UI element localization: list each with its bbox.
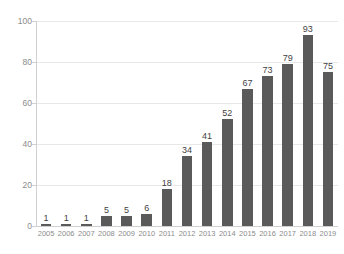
bar-rect (262, 76, 272, 226)
bar: 93 (303, 21, 313, 226)
y-axis-tick-label: 80 (6, 58, 32, 67)
bar: 18 (162, 21, 172, 226)
bar-rect (121, 216, 131, 226)
bar-chart: 020406080100 111556183441526773799375 20… (0, 0, 344, 254)
bar: 1 (61, 21, 71, 226)
bar-rect (202, 142, 212, 226)
bar-rect (141, 214, 151, 226)
x-axis-tick-label: 2005 (36, 229, 56, 238)
bar-rect (222, 119, 232, 226)
bar-rect (101, 216, 111, 226)
bar-value-label: 79 (274, 53, 300, 63)
y-axis-tick-label: 100 (6, 17, 32, 26)
bar-rect (303, 35, 313, 226)
bar: 1 (81, 21, 91, 226)
x-axis-tick-label: 2019 (318, 229, 338, 238)
x-axis-tick-label: 2012 (177, 229, 197, 238)
bar-value-label: 34 (174, 145, 200, 155)
y-axis-tick-label: 60 (6, 99, 32, 108)
bar: 67 (242, 21, 252, 226)
bar: 79 (282, 21, 292, 226)
y-axis-tick-label: 0 (6, 222, 32, 231)
bar-value-label: 67 (234, 78, 260, 88)
bar-rect (323, 72, 333, 226)
bar: 52 (222, 21, 232, 226)
bar-value-label: 6 (133, 203, 159, 213)
x-axis-line (36, 226, 338, 227)
bar-rect (162, 189, 172, 226)
x-axis-tick-label: 2016 (257, 229, 277, 238)
y-axis-tick-label: 40 (6, 140, 32, 149)
x-axis-tick-label: 2018 (298, 229, 318, 238)
plot-area: 111556183441526773799375 (36, 21, 338, 226)
x-axis-tick-label: 2017 (278, 229, 298, 238)
bar: 75 (323, 21, 333, 226)
bar: 5 (121, 21, 131, 226)
x-axis-tick-label: 2014 (217, 229, 237, 238)
bar: 6 (141, 21, 151, 226)
bar-rect (81, 224, 91, 226)
bar-rect (282, 64, 292, 226)
bar: 5 (101, 21, 111, 226)
bar-rect (61, 224, 71, 226)
x-axis-tick-label: 2007 (76, 229, 96, 238)
bar-rect (41, 224, 51, 226)
x-axis-tick-label: 2015 (237, 229, 257, 238)
x-axis-tick-label: 2006 (56, 229, 76, 238)
x-axis-tick-label: 2008 (96, 229, 116, 238)
bar-value-label: 41 (194, 131, 220, 141)
chart-title (24, 0, 324, 2)
y-axis-tick-label: 20 (6, 181, 32, 190)
x-axis-tick-label: 2011 (157, 229, 177, 238)
bar: 41 (202, 21, 212, 226)
bar: 1 (41, 21, 51, 226)
x-axis-tick-label: 2009 (117, 229, 137, 238)
x-axis-tick-label: 2013 (197, 229, 217, 238)
bar-value-label: 73 (254, 65, 280, 75)
bar: 34 (182, 21, 192, 226)
bar-value-label: 93 (295, 24, 321, 34)
bar-rect (182, 156, 192, 226)
bar-value-label: 18 (154, 178, 180, 188)
bar-value-label: 52 (214, 108, 240, 118)
bar-value-label: 75 (315, 61, 341, 71)
bar: 73 (262, 21, 272, 226)
bar-rect (242, 89, 252, 226)
x-axis-tick-label: 2010 (137, 229, 157, 238)
